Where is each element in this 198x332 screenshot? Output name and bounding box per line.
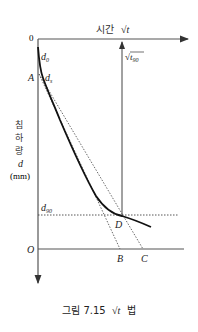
point-A-label: A: [27, 72, 35, 83]
y-axis-unit: (mm): [10, 171, 30, 181]
origin-top-label: 0: [29, 33, 34, 43]
ds-label: ds: [45, 72, 53, 84]
y-axis-char-3: 량: [15, 145, 23, 156]
caption-symbol: √t: [112, 305, 120, 316]
y-axis-symbol: d: [18, 158, 24, 169]
x-axis-label: 시간: [96, 24, 114, 35]
caption-prefix: 그림 7.15: [62, 305, 105, 316]
settlement-curve: [38, 47, 151, 227]
figure-caption: 그림 7.15 √t 법: [0, 302, 198, 317]
y-axis-char-2: 하: [15, 133, 24, 143]
line-A-C: [39, 74, 143, 249]
d0-label: d0: [41, 51, 49, 63]
d90-label: d90: [41, 202, 52, 214]
sqrt-t90-label: √t90: [125, 52, 138, 63]
point-B-label: B: [117, 253, 123, 264]
point-C-label: C: [141, 253, 148, 264]
sqrt-t-method-diagram: 시간 √t 0 O d0 A ds √t90 침 하 량 d (mm) d90 …: [0, 0, 198, 332]
x-axis-symbol: √t: [121, 24, 129, 35]
origin-bottom-label: O: [27, 244, 34, 255]
point-D-label: D: [114, 219, 123, 230]
y-axis-char-1: 침: [15, 120, 23, 130]
caption-suffix: 법: [127, 305, 136, 316]
